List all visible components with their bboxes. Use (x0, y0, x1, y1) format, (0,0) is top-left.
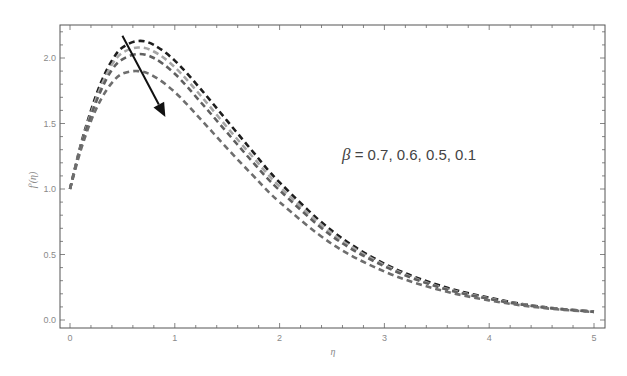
y-tick-label: 0.0 (43, 315, 56, 325)
x-tick-label: 0 (67, 333, 72, 343)
series-line-0-7 (70, 41, 594, 312)
y-tick-label: 1.5 (43, 119, 56, 129)
x-tick-label: 2 (277, 333, 282, 343)
x-axis-label: η (331, 346, 336, 357)
x-tick-label: 5 (591, 333, 596, 343)
series-layer (70, 41, 594, 312)
y-tick-label: 1.0 (43, 184, 56, 194)
series-line-0-1 (70, 71, 594, 312)
x-tick-label: 3 (382, 333, 387, 343)
beta-annotation: β = 0.7, 0.6, 0.5, 0.1 (341, 145, 476, 164)
y-tick-label: 2.0 (43, 53, 56, 63)
tick-labels: 0123450.00.51.01.52.0 (43, 53, 596, 343)
y-tick-label: 0.5 (43, 250, 56, 260)
x-tick-label: 1 (172, 333, 177, 343)
arrow-shaft (122, 36, 158, 105)
beta-values: = 0.7, 0.6, 0.5, 0.1 (350, 146, 476, 163)
series-line-0-5 (70, 54, 594, 312)
chart: 0123450.00.51.01.52.0 η f′(η) β = 0.7, 0… (0, 0, 627, 376)
y-axis-label: f′(η) (27, 171, 39, 188)
x-tick-label: 4 (487, 333, 492, 343)
